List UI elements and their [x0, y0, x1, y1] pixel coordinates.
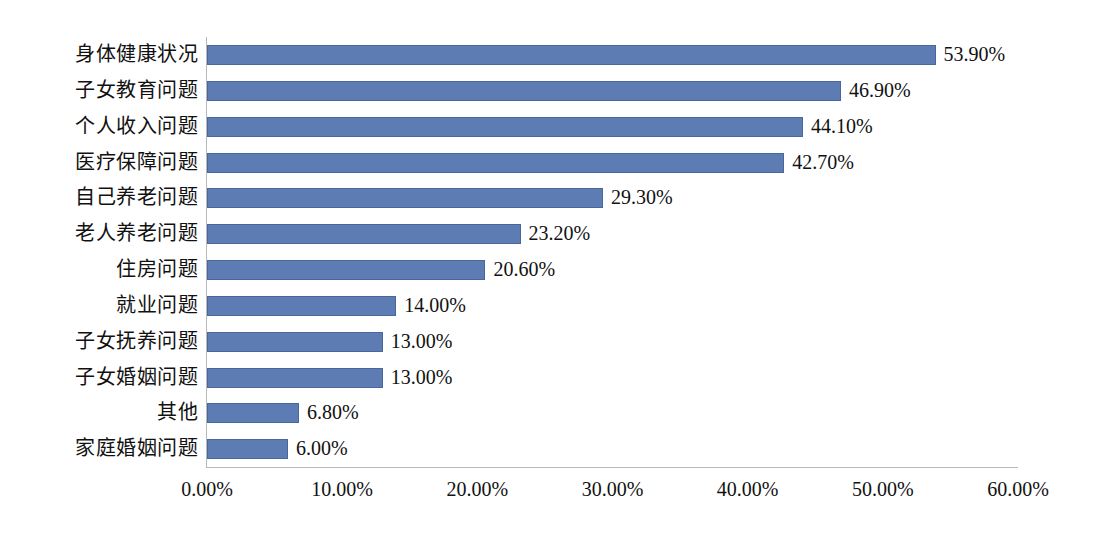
- category-label: 身体健康状况: [0, 37, 198, 73]
- category-label: 子女婚姻问题: [0, 360, 198, 396]
- bar-track: 6.80%: [207, 395, 1093, 431]
- category-label: 住房问题: [0, 252, 198, 288]
- bar: [207, 260, 485, 280]
- bar-value-label: 29.30%: [611, 180, 673, 216]
- bar: [207, 117, 803, 137]
- x-axis-tick-label: 20.00%: [417, 478, 537, 501]
- bar-track: 46.90%: [207, 73, 1093, 109]
- bar-row: 子女教育问题46.90%: [0, 73, 1093, 109]
- bar-track: 42.70%: [207, 145, 1093, 181]
- bar: [207, 368, 383, 388]
- bar: [207, 153, 784, 173]
- category-label: 医疗保障问题: [0, 145, 198, 181]
- bar-row: 子女抚养问题13.00%: [0, 324, 1093, 360]
- x-axis-tick-label: 60.00%: [958, 478, 1078, 501]
- bar-value-label: 14.00%: [404, 288, 466, 324]
- bar-row: 医疗保障问题42.70%: [0, 145, 1093, 181]
- x-axis-tick-label: 40.00%: [688, 478, 808, 501]
- bar-chart: 身体健康状况53.90%子女教育问题46.90%个人收入问题44.10%医疗保障…: [0, 0, 1093, 542]
- bar-value-label: 42.70%: [792, 145, 854, 181]
- bar-row: 就业问题14.00%: [0, 288, 1093, 324]
- bar-row: 住房问题20.60%: [0, 252, 1093, 288]
- bar-track: 29.30%: [207, 180, 1093, 216]
- bar-track: 13.00%: [207, 360, 1093, 396]
- bar-track: 13.00%: [207, 324, 1093, 360]
- bar-value-label: 46.90%: [849, 73, 911, 109]
- bar: [207, 332, 383, 352]
- bar-value-label: 6.80%: [307, 395, 359, 431]
- bar: [207, 403, 299, 423]
- bar-row: 自己养老问题29.30%: [0, 180, 1093, 216]
- bar: [207, 188, 603, 208]
- bar-value-label: 20.60%: [493, 252, 555, 288]
- x-axis-tick-label: 50.00%: [823, 478, 943, 501]
- bar-track: 20.60%: [207, 252, 1093, 288]
- bar-track: 6.00%: [207, 431, 1093, 467]
- bar: [207, 224, 521, 244]
- x-axis-tick-label: 0.00%: [147, 478, 267, 501]
- bar-row: 老人养老问题23.20%: [0, 216, 1093, 252]
- bar-value-label: 53.90%: [944, 37, 1006, 73]
- bar: [207, 81, 841, 101]
- category-label: 子女抚养问题: [0, 324, 198, 360]
- bar-value-label: 13.00%: [391, 324, 453, 360]
- bar: [207, 296, 396, 316]
- bar-track: 44.10%: [207, 109, 1093, 145]
- bar-value-label: 6.00%: [296, 431, 348, 467]
- bar-track: 23.20%: [207, 216, 1093, 252]
- category-label: 自己养老问题: [0, 180, 198, 216]
- bar-value-label: 13.00%: [391, 360, 453, 396]
- x-axis-tick-label: 10.00%: [282, 478, 402, 501]
- bar-row: 个人收入问题44.10%: [0, 109, 1093, 145]
- bar-row: 其他6.80%: [0, 395, 1093, 431]
- bar-track: 14.00%: [207, 288, 1093, 324]
- category-label: 家庭婚姻问题: [0, 431, 198, 467]
- category-label: 子女教育问题: [0, 73, 198, 109]
- category-label: 个人收入问题: [0, 109, 198, 145]
- bar-row: 身体健康状况53.90%: [0, 37, 1093, 73]
- bar: [207, 45, 936, 65]
- bar-track: 53.90%: [207, 37, 1093, 73]
- bar: [207, 439, 288, 459]
- bar-row: 家庭婚姻问题6.00%: [0, 431, 1093, 467]
- x-axis-line: [207, 467, 1018, 468]
- x-axis-tick-label: 30.00%: [553, 478, 673, 501]
- category-label: 其他: [0, 395, 198, 431]
- bar-value-label: 23.20%: [529, 216, 591, 252]
- bar-row: 子女婚姻问题13.00%: [0, 360, 1093, 396]
- category-label: 老人养老问题: [0, 216, 198, 252]
- bar-value-label: 44.10%: [811, 109, 873, 145]
- category-label: 就业问题: [0, 288, 198, 324]
